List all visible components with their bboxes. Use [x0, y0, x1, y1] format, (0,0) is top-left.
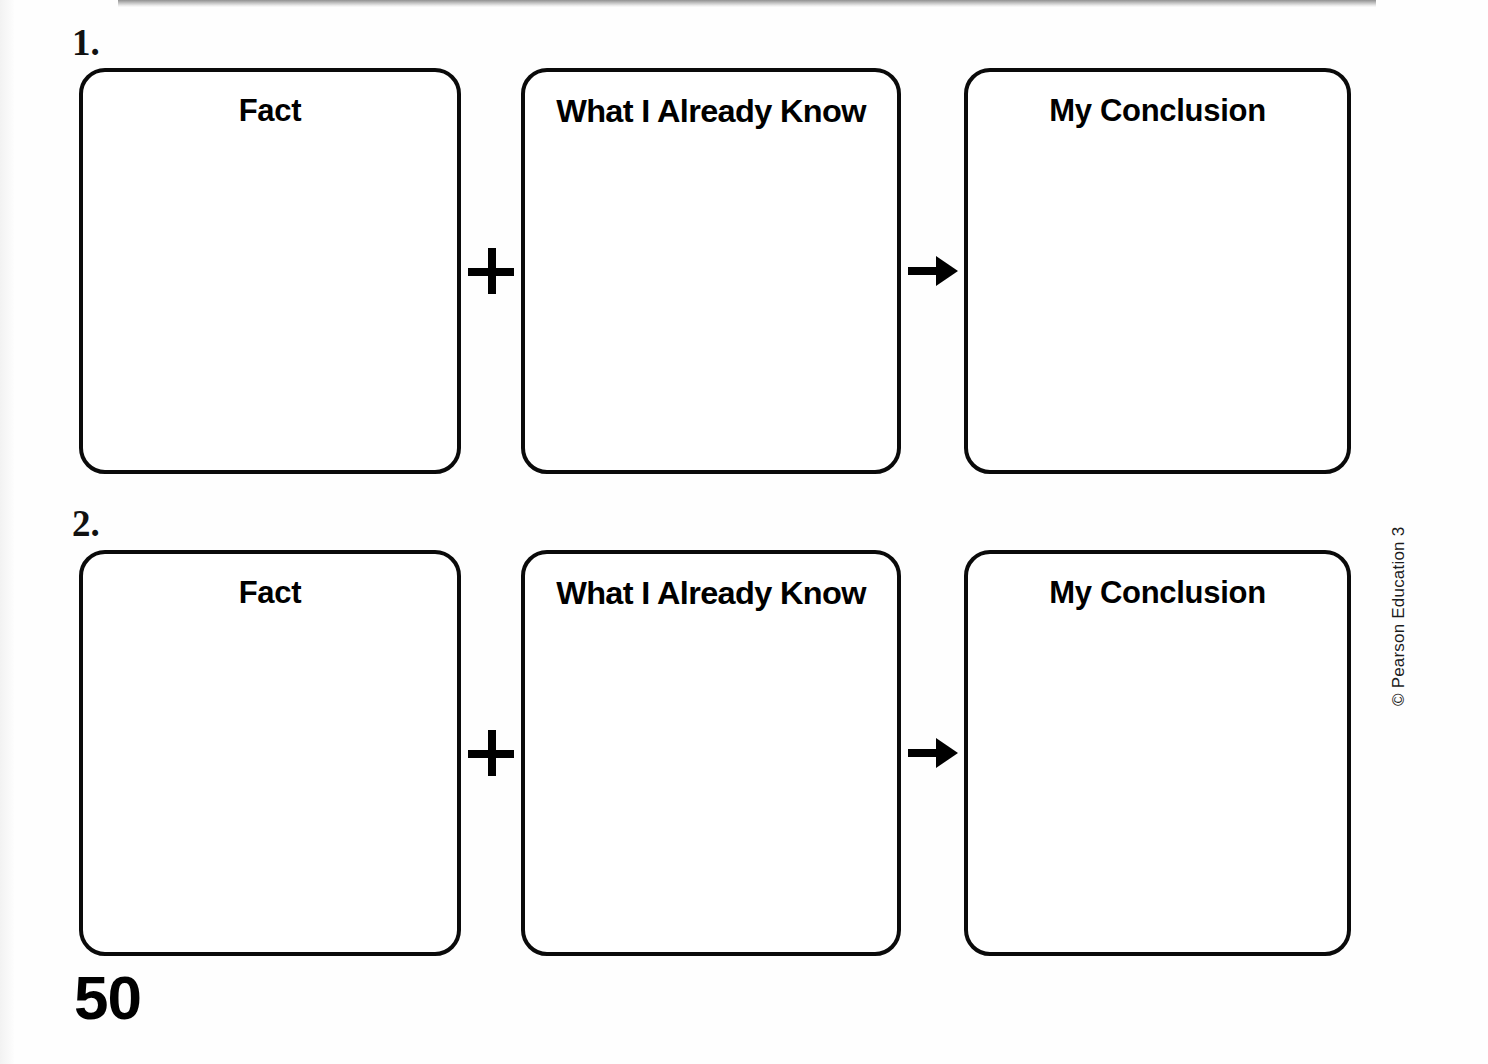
arrow-head — [936, 256, 958, 286]
prior-knowledge-box-2[interactable]: What I Already Know — [521, 550, 901, 956]
fact-box-1[interactable]: Fact — [79, 68, 461, 474]
conclusion-box-title: My Conclusion — [968, 576, 1347, 610]
arrow-right-icon — [908, 256, 958, 286]
arrow-connector-1 — [901, 68, 964, 474]
fact-box-2[interactable]: Fact — [79, 550, 461, 956]
plus-connector-2 — [461, 550, 521, 956]
plus-connector-1 — [461, 68, 521, 474]
prior-knowledge-box-1[interactable]: What I Already Know — [521, 68, 901, 474]
fact-box-title: Fact — [83, 576, 457, 610]
conclusion-box-title: My Conclusion — [968, 94, 1347, 128]
exercise-number-1: 1. — [72, 24, 100, 61]
plus-icon — [468, 248, 514, 294]
arrow-head — [936, 738, 958, 768]
worksheet-page: 1. Fact What I Already Know My Conclusio… — [0, 0, 1488, 1064]
conclusion-box-2[interactable]: My Conclusion — [964, 550, 1351, 956]
copyright-notice: © Pearson Education 3 — [1389, 506, 1409, 706]
exercise-row-1: Fact What I Already Know My Conclusion — [0, 68, 1488, 474]
header-bar-edge — [118, 0, 1376, 7]
exercise-row-2: Fact What I Already Know My Conclusion — [0, 550, 1488, 956]
fact-box-title: Fact — [83, 94, 457, 128]
prior-knowledge-box-title: What I Already Know — [519, 576, 902, 611]
exercise-number-2: 2. — [72, 505, 100, 542]
page-number: 50 — [74, 967, 141, 1029]
arrow-right-icon — [908, 738, 958, 768]
plus-icon — [468, 730, 514, 776]
arrow-connector-2 — [901, 550, 964, 956]
conclusion-box-1[interactable]: My Conclusion — [964, 68, 1351, 474]
prior-knowledge-box-title: What I Already Know — [519, 94, 902, 129]
